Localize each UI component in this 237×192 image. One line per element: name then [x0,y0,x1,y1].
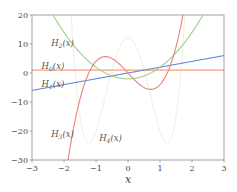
curve-h4 [32,0,224,143]
axis-ticks: −3−2−10123−30−20−1001020 [11,11,226,173]
x-tick-label: −2 [58,164,70,173]
y-tick-label: −20 [11,127,28,136]
label-h4: H4(x) [98,133,122,144]
label-h2: H2(x) [50,38,74,49]
x-tick-label: 2 [189,164,194,173]
x-tick-label: −3 [26,164,38,173]
y-tick-label: 20 [18,11,28,20]
hermite-polynomials-chart: −3−2−10123−30−20−1001020 H0(x)H1(x)H2(x)… [0,0,237,192]
x-axis-label: x [125,173,132,186]
label-h0: H0(x) [41,61,65,72]
y-tick-label: 10 [18,40,28,49]
y-tick-label: −30 [11,156,28,165]
x-tick-label: 0 [125,164,130,173]
label-h1: H1(x) [41,79,65,90]
label-h3: H3(x) [50,129,74,140]
x-tick-label: 1 [157,164,162,173]
x-tick-label: −1 [90,164,102,173]
y-tick-label: 0 [23,69,28,78]
x-tick-label: 3 [221,164,226,173]
y-tick-label: −10 [11,98,28,107]
